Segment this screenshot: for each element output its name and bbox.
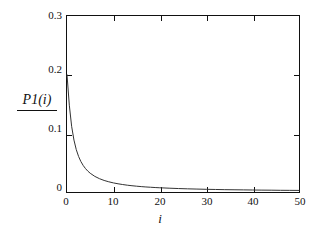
x-tick-label-30: 30 [195,196,219,207]
x-tick-label-20: 20 [148,196,172,207]
x-tick-label-50: 50 [288,196,312,207]
y-tick-label-0: 0 [40,182,62,193]
plot-area [66,15,300,193]
y-axis-title-text: P1(i) [10,92,64,108]
y-axis-title-rule [17,110,57,111]
x-tick-label-0: 0 [54,196,78,207]
x-tick-label-10: 10 [101,196,125,207]
decay-curve-line [67,75,299,191]
y-axis-title: P1(i) [10,92,64,111]
y-tick-label-0_2: 0.2 [40,64,62,75]
x-axis-title: i [0,212,320,226]
y-tick-label-0_1: 0.1 [40,123,62,134]
chart-figure: P1(i) i 0.3 0.2 0.1 0 0 10 20 30 40 50 [0,0,320,238]
decay-curve-svg [67,16,299,192]
x-tick-label-40: 40 [241,196,265,207]
y-tick-label-0_3: 0.3 [40,10,62,21]
